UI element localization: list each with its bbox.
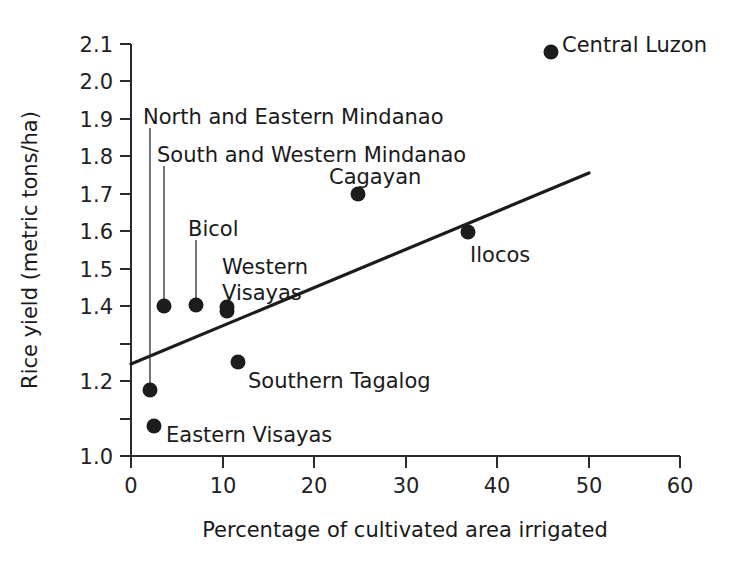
x-tick-label-60: 60 bbox=[667, 474, 694, 498]
y-tick-label-1.4: 1.4 bbox=[80, 295, 113, 319]
data-point-southern-tagalog bbox=[231, 355, 246, 370]
label-western-visayas-line1: Western bbox=[222, 255, 308, 279]
label-south-western-mindanao: South and Western Mindanao bbox=[157, 143, 466, 167]
label-bicol: Bicol bbox=[188, 217, 238, 241]
data-point-north-eastern-mindanao bbox=[143, 383, 158, 398]
y-tick-label-2.1: 2.1 bbox=[80, 33, 113, 57]
x-axis-title: Percentage of cultivated area irrigated bbox=[202, 518, 608, 542]
y-tick-label-1.9: 1.9 bbox=[80, 108, 113, 132]
data-point-south-western-mindanao bbox=[157, 299, 172, 314]
data-point-ilocos bbox=[461, 225, 476, 240]
label-central-luzon: Central Luzon bbox=[562, 33, 707, 57]
label-western-visayas-line2: Visayas bbox=[222, 281, 302, 305]
x-tick-label-0: 0 bbox=[124, 474, 137, 498]
data-point-western-visayas-marker bbox=[220, 304, 235, 319]
y-tick-label-1.2: 1.2 bbox=[80, 370, 113, 394]
label-cagayan: Cagayan bbox=[329, 165, 421, 189]
y-tick-label-1.8: 1.8 bbox=[80, 145, 113, 169]
x-tick-label-40: 40 bbox=[484, 474, 511, 498]
y-tick-label-1.6: 1.6 bbox=[80, 220, 113, 244]
x-tick-label-10: 10 bbox=[210, 474, 237, 498]
x-tick-label-30: 30 bbox=[393, 474, 420, 498]
y-tick-label-1.5: 1.5 bbox=[80, 258, 113, 282]
data-point-central-luzon bbox=[544, 45, 559, 60]
x-tick-label-20: 20 bbox=[301, 474, 328, 498]
rice-yield-scatter-chart: 2.1 2.0 1.9 1.8 1.7 1.6 1.5 1.4 1.2 1.0 … bbox=[0, 0, 740, 565]
label-eastern-visayas: Eastern Visayas bbox=[166, 423, 332, 447]
label-southern-tagalog: Southern Tagalog bbox=[248, 369, 431, 393]
y-tick-label-1.7: 1.7 bbox=[80, 183, 113, 207]
y-axis-title: Rice yield (metric tons/ha) bbox=[18, 111, 42, 389]
data-point-eastern-visayas bbox=[147, 419, 162, 434]
data-point-bicol bbox=[189, 298, 204, 313]
label-ilocos: Ilocos bbox=[470, 243, 530, 267]
chart-svg: 2.1 2.0 1.9 1.8 1.7 1.6 1.5 1.4 1.2 1.0 … bbox=[0, 0, 740, 565]
label-north-eastern-mindanao: North and Eastern Mindanao bbox=[143, 105, 444, 129]
y-tick-label-1.0: 1.0 bbox=[80, 445, 113, 469]
x-tick-label-50: 50 bbox=[576, 474, 603, 498]
y-tick-label-2.0: 2.0 bbox=[80, 70, 113, 94]
